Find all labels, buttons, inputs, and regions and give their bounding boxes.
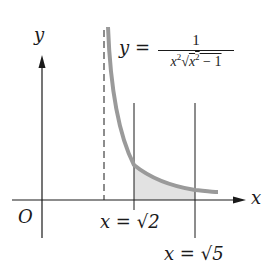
equation-fraction: 1 x2√x2 − 1 bbox=[158, 33, 234, 69]
radicand: x2 − 1 bbox=[189, 54, 222, 69]
lower-bound-label: x = √2 bbox=[100, 213, 160, 231]
lower-bound-text: x = √2 bbox=[100, 211, 160, 232]
upper-bound-label: x = √5 bbox=[164, 245, 224, 263]
y-axis-arrowhead bbox=[39, 55, 46, 68]
diagram-figure: y x O y = 1 x2√x2 − 1 x = √2 x = √5 bbox=[0, 0, 268, 280]
origin-label: O bbox=[18, 208, 33, 226]
x-axis-arrowhead bbox=[233, 197, 246, 204]
radical-sign-icon: √ bbox=[181, 54, 189, 69]
equation-denominator: x2√x2 − 1 bbox=[158, 51, 234, 69]
equation-lhs: y = bbox=[119, 39, 150, 57]
x-axis-label: x bbox=[251, 189, 261, 207]
upper-bound-text: x = √5 bbox=[164, 243, 224, 264]
equation-numerator: 1 bbox=[158, 33, 234, 50]
y-axis-label: y bbox=[34, 26, 44, 44]
radicand-tail: − 1 bbox=[200, 54, 222, 69]
